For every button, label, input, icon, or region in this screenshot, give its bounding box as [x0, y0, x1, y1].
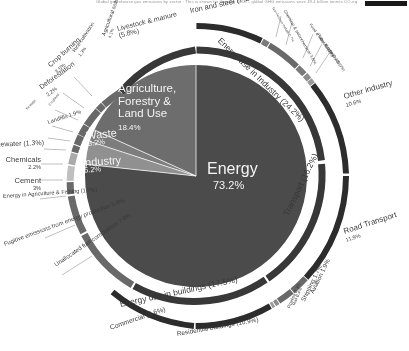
outer-seg-other-industry[interactable]: [313, 85, 346, 174]
outer-seg-iron-and-steel[interactable]: [196, 26, 261, 41]
donut-chart-svg: [0, 0, 409, 351]
mid-seg-wastewater[interactable]: [75, 146, 77, 153]
outer-seg-residential-buildings[interactable]: [196, 306, 271, 326]
inner-label-energy-value: 73.2%: [213, 179, 244, 191]
mid-seg-landfills[interactable]: [77, 136, 81, 145]
outer-seg-shipping[interactable]: [279, 291, 292, 301]
inner-label-agriculture-name: Agriculture, Forestry & Land Use: [118, 82, 176, 120]
outer-seg-non-ferrous-metals[interactable]: [262, 41, 268, 44]
mid-seg-cement[interactable]: [70, 166, 71, 181]
inner-label-energy-name: Energy: [207, 160, 258, 178]
inner-label-waste-value: 3.2%: [88, 138, 106, 148]
outer-seg-pipeline[interactable]: [271, 304, 274, 305]
chart-canvas: Global greenhouse gas emissions by secto…: [0, 0, 409, 351]
outer-seg-aviation[interactable]: [292, 278, 305, 291]
mid-seg-crop-burning[interactable]: [87, 111, 98, 126]
outer-seg-food-tobacco[interactable]: [298, 67, 305, 74]
inner-label-industry-value: 5.2%: [84, 165, 102, 174]
mid-seg-fugitive-emissions[interactable]: [71, 196, 83, 233]
inner-label-agriculture-value: 18.4%: [118, 124, 141, 133]
outer-seg-machinery[interactable]: [309, 80, 312, 84]
mid-seg-chemicals[interactable]: [72, 153, 75, 164]
mid-seg-energy-agriculture-fishing[interactable]: [70, 182, 71, 194]
outer-seg-chemical-petrochemical[interactable]: [269, 45, 297, 66]
outer-seg-rail[interactable]: [275, 302, 278, 304]
outer-seg-paper-pulp[interactable]: [305, 75, 309, 80]
mid-seg-rice-cultivation[interactable]: [98, 105, 103, 110]
